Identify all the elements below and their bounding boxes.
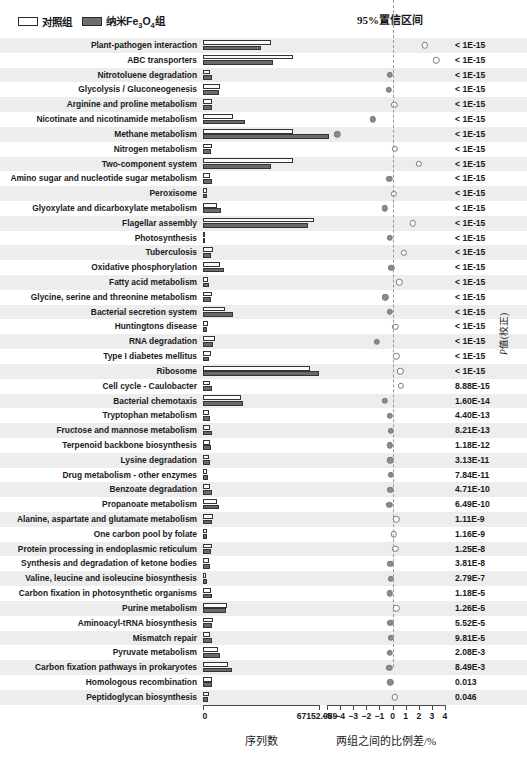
pvalue-cell: 6.49E-10 <box>455 497 515 512</box>
table-row[interactable]: Peroxisome< 1E-15 <box>0 186 527 201</box>
sequence-count-bars <box>203 438 319 453</box>
sequence-count-bars <box>203 319 319 334</box>
sequence-count-bars <box>203 586 319 601</box>
bar-treatment <box>203 534 207 539</box>
table-row[interactable]: One carbon pool by folate1.16E-9 <box>0 527 527 542</box>
confidence-interval-cell <box>327 260 445 275</box>
ci-dot-filled <box>388 472 394 478</box>
table-row[interactable]: Terpenoid backbone biosynthesis1.18E-12 <box>0 438 527 453</box>
ci-dot-filled <box>386 664 392 670</box>
sequence-count-bars <box>203 112 319 127</box>
pathway-label: Tuberculosis <box>0 245 200 260</box>
sequence-count-bars <box>203 453 319 468</box>
table-row[interactable]: Lysine degradation3.13E-11 <box>0 453 527 468</box>
bar-treatment <box>203 490 212 495</box>
table-row[interactable]: Methane metabolism< 1E-15 <box>0 127 527 142</box>
table-row[interactable]: Glycine, serine and threonine metabolism… <box>0 290 527 305</box>
table-row[interactable]: RNA degradation< 1E-15 <box>0 334 527 349</box>
pvalue-cell: < 1E-15 <box>455 82 515 97</box>
table-row[interactable]: Drug metabolism - other enzymes7.84E-11 <box>0 468 527 483</box>
table-row[interactable]: Bacterial secretion system< 1E-15 <box>0 305 527 320</box>
bar-treatment <box>203 697 208 702</box>
table-row[interactable]: Amino sugar and nucleotide sugar metabol… <box>0 171 527 186</box>
table-row[interactable]: Arginine and proline metabolism< 1E-15 <box>0 97 527 112</box>
table-row[interactable]: Glyoxylate and dicarboxylate metabolism<… <box>0 201 527 216</box>
confidence-interval-cell <box>327 408 445 423</box>
right-axis-tick-label: 4 <box>443 711 448 721</box>
table-row[interactable]: Type I diabetes mellitus< 1E-15 <box>0 349 527 364</box>
table-row[interactable]: Aminoacyl-tRNA biosynthesis5.52E-5 <box>0 616 527 631</box>
table-row[interactable]: Tuberculosis< 1E-15 <box>0 245 527 260</box>
pathway-label: Alanine, aspartate and glutamate metabol… <box>0 512 200 527</box>
table-row[interactable]: Ribosome< 1E-15 <box>0 364 527 379</box>
sequence-count-bars <box>203 690 319 705</box>
table-row[interactable]: Nitrotoluene degradation< 1E-15 <box>0 68 527 83</box>
table-row[interactable]: Protein processing in endoplasmic reticu… <box>0 542 527 557</box>
pathway-label: Terpenoid backbone biosynthesis <box>0 438 200 453</box>
right-axis-tick <box>445 705 446 710</box>
pathway-label: Mismatch repair <box>0 631 200 646</box>
pvalue-cell: 4.40E-13 <box>455 408 515 423</box>
bar-control <box>203 677 212 682</box>
ci-dot-open <box>416 161 422 167</box>
bar-treatment <box>203 549 211 554</box>
confidence-interval-cell <box>327 201 445 216</box>
table-row[interactable]: Propanoate metabolism6.49E-10 <box>0 497 527 512</box>
table-row[interactable]: Homologous recombination0.013 <box>0 675 527 690</box>
pathway-label: Lysine degradation <box>0 453 200 468</box>
table-row[interactable]: Cell cycle - Caulobacter8.88E-15 <box>0 379 527 394</box>
bar-control <box>203 158 293 163</box>
table-row[interactable]: Oxidative phosphorylation< 1E-15 <box>0 260 527 275</box>
bar-treatment <box>203 682 212 687</box>
table-row[interactable]: Fructose and mannose metabolism8.21E-13 <box>0 423 527 438</box>
sequence-count-bars <box>203 482 319 497</box>
table-row[interactable]: Two-component system< 1E-15 <box>0 157 527 172</box>
bar-treatment <box>203 371 319 376</box>
table-row[interactable]: Mismatch repair9.81E-5 <box>0 631 527 646</box>
table-row[interactable]: Glycolysis / Gluconeogenesis< 1E-15 <box>0 82 527 97</box>
confidence-interval-cell <box>327 660 445 675</box>
table-row[interactable]: Pyruvate metabolism2.08E-3 <box>0 645 527 660</box>
table-row[interactable]: Nitrogen metabolism< 1E-15 <box>0 142 527 157</box>
table-row[interactable]: Photosynthesis< 1E-15 <box>0 231 527 246</box>
table-row[interactable]: Carbon fixation in photosynthetic organi… <box>0 586 527 601</box>
pathway-label: Arginine and proline metabolism <box>0 97 200 112</box>
table-row[interactable]: Purine metabolism1.26E-5 <box>0 601 527 616</box>
table-row[interactable]: Nicotinate and nicotinamide metabolism< … <box>0 112 527 127</box>
table-row[interactable]: ABC transporters< 1E-15 <box>0 53 527 68</box>
pathway-label: Protein processing in endoplasmic reticu… <box>0 542 200 557</box>
table-row[interactable]: Huntingtons disease< 1E-15 <box>0 319 527 334</box>
sequence-count-bars <box>203 216 319 231</box>
table-row[interactable]: Carbon fixation pathways in prokaryotes8… <box>0 660 527 675</box>
bar-treatment <box>203 653 220 658</box>
ci-dot-filled <box>387 679 393 685</box>
right-axis-tick <box>406 705 407 710</box>
confidence-interval-cell <box>327 112 445 127</box>
sequence-count-bars <box>203 379 319 394</box>
table-row[interactable]: Bacterial chemotaxis1.60E-14 <box>0 394 527 409</box>
table-row[interactable]: Benzoate degradation4.71E-10 <box>0 482 527 497</box>
pvalue-cell: < 1E-15 <box>455 53 515 68</box>
bar-control <box>203 203 217 208</box>
table-row[interactable]: Fatty acid metabolism< 1E-15 <box>0 275 527 290</box>
table-row[interactable]: Valine, leucine and isoleucine biosynthe… <box>0 571 527 586</box>
pathway-label: Flagellar assembly <box>0 216 200 231</box>
right-axis-tick-label: 2 <box>416 711 421 721</box>
bar-control <box>203 292 212 297</box>
table-row[interactable]: Synthesis and degradation of ketone bodi… <box>0 556 527 571</box>
table-row[interactable]: Tryptophan metabolism4.40E-13 <box>0 408 527 423</box>
pathway-label: Homologous recombination <box>0 675 200 690</box>
sequence-count-bars <box>203 275 319 290</box>
confidence-interval-cell <box>327 616 445 631</box>
bar-control <box>203 247 213 252</box>
table-row[interactable]: Peptidoglycan biosynthesis0.046 <box>0 690 527 705</box>
table-row[interactable]: Plant-pathogen interaction< 1E-15 <box>0 38 527 53</box>
table-row[interactable]: Alanine, aspartate and glutamate metabol… <box>0 512 527 527</box>
bar-control <box>203 588 211 593</box>
bar-control <box>203 692 209 697</box>
ci-dot-filled <box>387 635 393 641</box>
ci-dot-filled <box>388 264 394 270</box>
ci-dot-open <box>397 368 403 374</box>
table-row[interactable]: Flagellar assembly< 1E-15 <box>0 216 527 231</box>
ci-dot-filled <box>387 413 393 419</box>
